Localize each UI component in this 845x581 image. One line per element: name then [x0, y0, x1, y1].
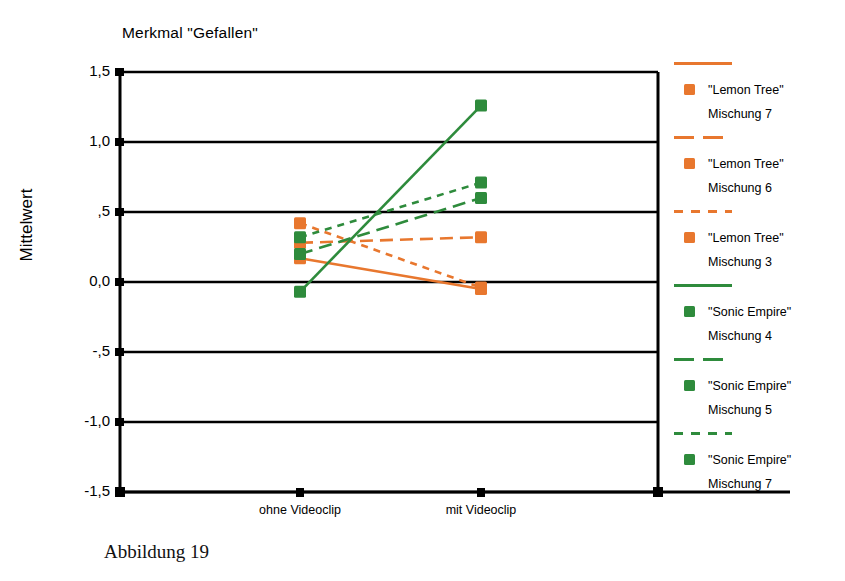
legend-line-sample [674, 284, 732, 287]
legend-label-line2: Mischung 7 [708, 102, 784, 126]
data-point-marker[interactable] [475, 231, 487, 243]
legend-entry[interactable]: "Lemon Tree"Mischung 7 [672, 58, 842, 132]
legend-label-line1: "Sonic Empire" [708, 300, 791, 324]
legend-label-line2: Mischung 3 [708, 250, 784, 274]
y-tick-mark [115, 418, 124, 426]
data-point-marker[interactable] [294, 217, 306, 229]
legend-marker [684, 454, 695, 465]
legend-label: "Lemon Tree"Mischung 6 [708, 152, 784, 200]
legend-label: "Lemon Tree"Mischung 3 [708, 226, 784, 274]
legend-label-line2: Mischung 6 [708, 176, 784, 200]
data-point-marker[interactable] [475, 282, 487, 294]
legend-entry[interactable]: "Sonic Empire"Mischung 4 [672, 280, 842, 354]
series-line [300, 237, 481, 243]
data-point-marker[interactable] [294, 286, 306, 298]
chart-legend: "Lemon Tree"Mischung 7"Lemon Tree"Mischu… [672, 58, 842, 502]
x-tick-mark [296, 488, 304, 497]
legend-label-line1: "Lemon Tree" [708, 226, 784, 250]
legend-label: "Sonic Empire"Mischung 5 [708, 374, 791, 422]
figure-caption: Abbildung 19 [104, 541, 209, 563]
y-tick-mark [115, 138, 124, 146]
legend-label-line2: Mischung 7 [708, 472, 791, 496]
series-line [300, 223, 481, 287]
legend-label-line2: Mischung 5 [708, 398, 791, 422]
legend-marker [684, 380, 695, 391]
legend-marker [684, 306, 695, 317]
series-line [300, 183, 481, 238]
data-point-marker[interactable] [475, 192, 487, 204]
series-line [300, 106, 481, 292]
legend-entry[interactable]: "Lemon Tree"Mischung 6 [672, 132, 842, 206]
legend-line-sample [674, 62, 732, 65]
y-tick-mark [115, 68, 124, 76]
legend-entry[interactable]: "Lemon Tree"Mischung 3 [672, 206, 842, 280]
data-point-marker[interactable] [475, 100, 487, 112]
legend-label-line1: "Sonic Empire" [708, 448, 791, 472]
y-tick-mark [115, 208, 124, 216]
data-point-marker[interactable] [294, 248, 306, 260]
y-tick-mark [115, 348, 124, 356]
y-tick-mark [115, 278, 124, 286]
axis-corner-mark [115, 487, 125, 497]
legend-entry[interactable]: "Sonic Empire"Mischung 7 [672, 428, 842, 502]
legend-label: "Sonic Empire"Mischung 4 [708, 300, 791, 348]
legend-line-sample [674, 210, 732, 213]
legend-line-sample [674, 432, 732, 435]
legend-line-sample [674, 358, 732, 361]
legend-label-line2: Mischung 4 [708, 324, 791, 348]
legend-line-sample [674, 136, 732, 139]
legend-label: "Lemon Tree"Mischung 7 [708, 78, 784, 126]
legend-label: "Sonic Empire"Mischung 7 [708, 448, 791, 496]
legend-marker [684, 232, 695, 243]
legend-marker [684, 84, 695, 95]
legend-marker [684, 158, 695, 169]
legend-label-line1: "Lemon Tree" [708, 78, 784, 102]
figure-container: Merkmal "Gefallen" Mittelwert 1,51,0,50,… [0, 0, 845, 581]
legend-label-line1: "Lemon Tree" [708, 152, 784, 176]
axis-corner-mark [653, 487, 663, 497]
data-point-marker[interactable] [294, 231, 306, 243]
legend-label-line1: "Sonic Empire" [708, 374, 791, 398]
series-line [300, 198, 481, 254]
data-point-marker[interactable] [475, 177, 487, 189]
legend-entry[interactable]: "Sonic Empire"Mischung 5 [672, 354, 842, 428]
x-tick-mark [477, 488, 485, 497]
